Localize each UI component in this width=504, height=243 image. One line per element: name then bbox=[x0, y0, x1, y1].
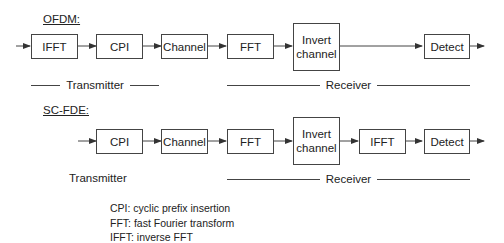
ofdm-receiver-label: Receiver bbox=[320, 79, 377, 91]
legend-fft: FFT: fast Fourier transform bbox=[110, 216, 234, 231]
legend-ifft: IFFT: inverse FFT bbox=[110, 230, 234, 243]
abbreviation-legend: CPI: cyclic prefix insertion FFT: fast F… bbox=[110, 201, 234, 243]
scfde-cpi-block: CPI bbox=[96, 129, 143, 154]
ofdm-cpi-block: CPI bbox=[96, 34, 143, 59]
ofdm-channel-block: Channel bbox=[161, 34, 208, 59]
scfde-receiver-label: Receiver bbox=[320, 173, 377, 185]
scfde-detect-block: Detect bbox=[424, 129, 470, 154]
scfde-fft-block: FFT bbox=[227, 129, 274, 154]
ofdm-ifft-block: IFFT bbox=[31, 34, 78, 59]
scfde-title: SC-FDE: bbox=[43, 104, 89, 116]
ofdm-transmitter-bracket: Transmitter bbox=[31, 78, 159, 92]
scfde-channel-block: Channel bbox=[161, 129, 208, 154]
ofdm-title: OFDM: bbox=[43, 13, 80, 25]
scfde-ifft-block: IFFT bbox=[359, 129, 406, 154]
scfde-invert-channel-block: Invert channel bbox=[293, 117, 340, 165]
ofdm-invert-channel-block: Invert channel bbox=[293, 23, 340, 71]
scfde-receiver-bracket: Receiver bbox=[227, 172, 470, 186]
scfde-transmitter-label: Transmitter bbox=[69, 172, 127, 184]
ofdm-receiver-bracket: Receiver bbox=[227, 78, 470, 92]
legend-cpi: CPI: cyclic prefix insertion bbox=[110, 201, 234, 216]
ofdm-fft-block: FFT bbox=[227, 34, 274, 59]
ofdm-transmitter-label: Transmitter bbox=[60, 79, 130, 91]
ofdm-detect-block: Detect bbox=[424, 34, 470, 59]
